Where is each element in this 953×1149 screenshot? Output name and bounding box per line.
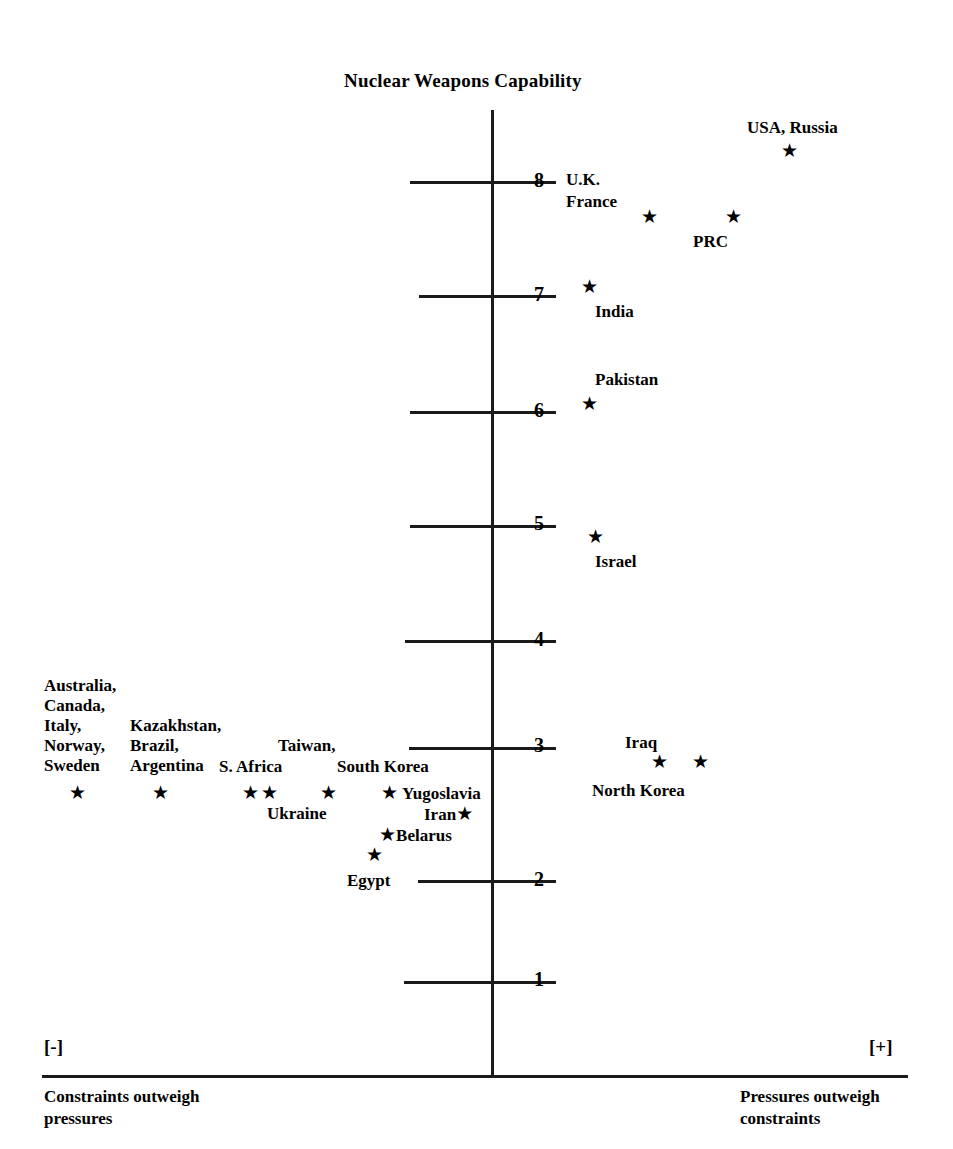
data-marker-left-block-1: ★ bbox=[69, 783, 86, 802]
data-label-south-korea: South Korea bbox=[337, 757, 429, 777]
data-marker-yugoslavia: ★ bbox=[381, 781, 398, 803]
data-label-usa-russia: USA, Russia bbox=[747, 118, 838, 138]
data-label-india: India bbox=[595, 302, 634, 322]
data-label-taiwan: Taiwan, bbox=[278, 736, 335, 756]
data-point-iran: Iran★ bbox=[424, 804, 473, 825]
axis-positive-sign: [+] bbox=[869, 1036, 892, 1058]
data-label-left-block-2: Kazakhstan, Brazil, Argentina bbox=[130, 716, 221, 776]
data-label-uk: U.K. bbox=[566, 170, 600, 190]
tick-label-3: 3 bbox=[534, 735, 544, 755]
tick-label-6: 6 bbox=[534, 400, 544, 420]
data-marker-usa-russia: ★ bbox=[781, 141, 798, 160]
data-label-north-korea: North Korea bbox=[592, 781, 685, 801]
tick-label-2: 2 bbox=[534, 869, 544, 889]
nuclear-capability-chart: Nuclear Weapons Capability 8 7 6 5 4 3 2… bbox=[0, 0, 953, 1149]
axis-right-caption: Pressures outweigh constraints bbox=[740, 1086, 880, 1130]
data-label-egypt: Egypt bbox=[347, 871, 390, 891]
data-label-belarus: Belarus bbox=[396, 826, 452, 845]
horizontal-axis bbox=[42, 1075, 908, 1078]
data-label-s-africa: S. Africa bbox=[219, 757, 282, 777]
data-label-prc: PRC bbox=[693, 232, 728, 252]
data-marker-ukraine: ★ bbox=[320, 783, 337, 802]
data-marker-left-block-2: ★ bbox=[152, 783, 169, 802]
data-marker-prc: ★ bbox=[725, 207, 742, 226]
data-marker-north-korea: ★ bbox=[692, 752, 709, 771]
data-label-france: France bbox=[566, 192, 617, 212]
data-point-yugoslavia: ★Yugoslavia bbox=[381, 783, 481, 804]
data-label-pakistan: Pakistan bbox=[595, 370, 658, 390]
tick-label-5: 5 bbox=[534, 513, 544, 533]
data-marker-israel: ★ bbox=[587, 527, 604, 546]
data-label-iran: Iran bbox=[424, 805, 456, 824]
data-marker-france: ★ bbox=[641, 207, 658, 226]
tick-label-8: 8 bbox=[534, 170, 544, 190]
data-label-ukraine: Ukraine bbox=[267, 804, 327, 824]
data-marker-pakistan: ★ bbox=[581, 394, 598, 413]
data-marker-egypt: ★ bbox=[366, 845, 383, 864]
data-marker-s-africa: ★ bbox=[242, 783, 259, 802]
data-label-yugoslavia: Yugoslavia bbox=[402, 784, 481, 803]
tick-label-1: 1 bbox=[534, 969, 544, 989]
data-marker-iraq: ★ bbox=[651, 752, 668, 771]
vertical-axis bbox=[491, 110, 494, 1076]
axis-negative-sign: [-] bbox=[44, 1036, 63, 1058]
page-title: Nuclear Weapons Capability bbox=[344, 70, 582, 92]
tick-label-7: 7 bbox=[534, 284, 544, 304]
data-label-left-block-1: Australia, Canada, Italy, Norway, Sweden bbox=[44, 676, 116, 776]
data-point-belarus: ★Belarus bbox=[379, 825, 452, 846]
tick-label-4: 4 bbox=[534, 629, 544, 649]
data-marker-s-africa-second: ★ bbox=[261, 783, 278, 802]
data-marker-india: ★ bbox=[581, 277, 598, 296]
data-marker-iran: ★ bbox=[456, 802, 473, 824]
data-label-israel: Israel bbox=[595, 552, 637, 572]
data-marker-belarus: ★ bbox=[379, 823, 396, 845]
axis-left-caption: Constraints outweigh pressures bbox=[44, 1086, 199, 1130]
